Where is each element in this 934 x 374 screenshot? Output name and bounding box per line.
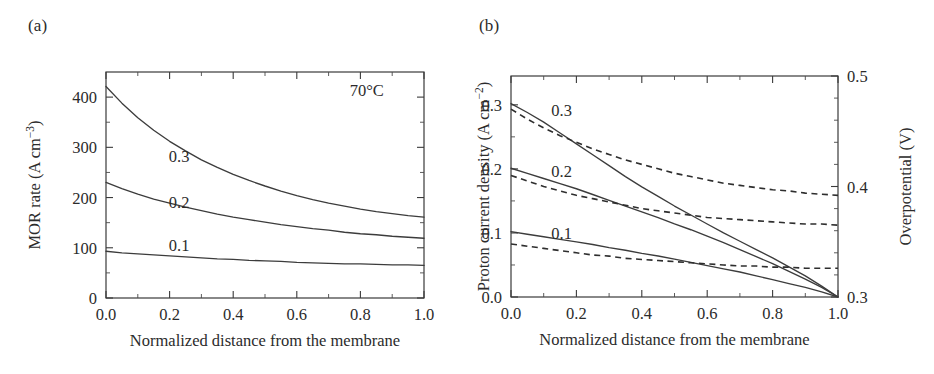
x-tick-label: 1.0: [828, 304, 849, 323]
y-axis-title-right: Overpotential (V): [896, 128, 915, 246]
proton-current-curve: [511, 104, 838, 297]
data-curve: [106, 251, 424, 265]
panel-b: (b) 0.00.20.40.60.81.00.00.10.20.30.30.4…: [467, 0, 934, 374]
x-tick-label: 0.2: [159, 305, 180, 324]
figure-container: (a) 0.00.20.40.60.81.001002003004000.30.…: [0, 0, 934, 374]
y-tick-label: 200: [72, 189, 97, 208]
overpotential-curve: [511, 244, 838, 268]
y-tick-label: 400: [72, 88, 97, 107]
y-axis-title: MOR rate (A cm−3): [24, 120, 44, 249]
panel-b-plot: 0.00.20.40.60.81.00.00.10.20.30.30.40.50…: [467, 0, 934, 374]
y-axis-title-left: Proton current density (A cm−2): [473, 82, 493, 291]
panel-b-tag: (b): [479, 16, 499, 36]
panel-a-plot: 0.00.20.40.60.81.001002003004000.30.20.1…: [0, 0, 467, 374]
panel-a: (a) 0.00.20.40.60.81.001002003004000.30.…: [0, 0, 467, 374]
y-tick-label: 300: [72, 138, 97, 157]
curve-label: 0.1: [169, 236, 190, 255]
y-tick-label: 100: [72, 239, 97, 258]
x-tick-label: 0.6: [286, 305, 307, 324]
x-axis-title: Normalized distance from the membrane: [539, 330, 809, 349]
curve-label: 0.3: [551, 101, 572, 120]
y-tick-label: 0: [89, 289, 97, 308]
temperature-annotation: 70°C: [350, 81, 384, 100]
x-tick-label: 0.8: [762, 304, 783, 323]
curve-label: 0.3: [169, 147, 190, 166]
y-tick-label-right: 0.4: [847, 178, 868, 197]
overpotential-curve: [511, 109, 838, 195]
y-tick-label-right: 0.3: [847, 288, 868, 307]
x-axis-title: Normalized distance from the membrane: [130, 331, 400, 350]
data-curve: [106, 182, 424, 238]
x-tick-label: 0.4: [631, 304, 652, 323]
x-tick-label: 1.0: [414, 305, 435, 324]
curve-label: 0.2: [551, 162, 572, 181]
x-tick-label: 0.6: [697, 304, 718, 323]
panel-a-tag: (a): [28, 16, 47, 36]
data-curve: [106, 87, 424, 218]
x-tick-label: 0.2: [566, 304, 587, 323]
x-tick-label: 0.4: [223, 305, 244, 324]
y-tick-label-right: 0.5: [847, 67, 868, 86]
curve-label: 0.2: [169, 193, 190, 212]
x-tick-label: 0.0: [96, 305, 117, 324]
curve-label: 0.1: [551, 224, 572, 243]
overpotential-curve: [511, 175, 838, 225]
x-tick-label: 0.8: [350, 305, 371, 324]
x-tick-label: 0.0: [501, 304, 522, 323]
